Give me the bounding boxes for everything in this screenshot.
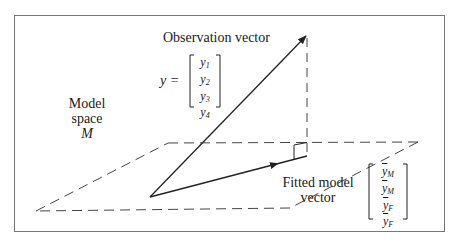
matrix-entry: y1 — [200, 56, 209, 73]
observation-matrix: y1 y2 y3 y4 — [196, 56, 214, 123]
matrix-entry: yF — [383, 199, 393, 216]
matrix-entry: y2 — [200, 73, 209, 90]
matrix-entry: y4 — [200, 106, 209, 123]
fitted-model-vector-label: Fitted model vector — [273, 175, 363, 205]
fitted-matrix: yM yM yF yF — [375, 165, 401, 232]
y-equals-label: y = — [160, 73, 179, 88]
matrix-entry: yF — [383, 215, 393, 232]
matrix-entry: yM — [382, 182, 394, 199]
observation-vector-label: Observation vector — [163, 30, 270, 45]
matrix-entry: y3 — [200, 90, 209, 107]
model-space-label: Model space M — [62, 96, 112, 141]
matrix-entry: yM — [382, 165, 394, 182]
observation-vector-arrow — [150, 36, 306, 197]
